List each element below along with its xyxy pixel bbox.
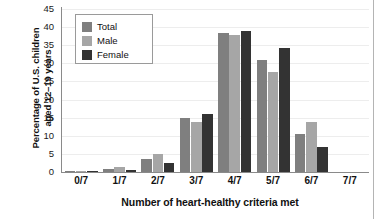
x-axis-tick-labels: 0/71/72/73/74/75/76/77/7 [62,175,369,189]
bar-group [257,9,290,172]
bar-total-3-of-7 [180,118,191,172]
bar-total-0-of-7 [65,171,76,172]
bar-male-5-of-7 [268,72,279,172]
y-axis-tick-label: 40 [24,22,54,32]
legend-swatch-female-icon [82,50,92,60]
legend-swatch-total-icon [82,22,92,32]
bar-female-5-of-7 [279,48,290,172]
x-axis-tick-label: 0/7 [61,175,101,187]
bar-female-3-of-7 [202,114,213,172]
legend-label-male: Male [97,36,118,46]
legend-label-female: Female [97,50,129,60]
bar-group [295,9,328,172]
bar-male-4-of-7 [229,35,240,172]
y-axis-line [61,7,62,172]
y-axis-tick-label: 5 [24,149,54,159]
bar-total-4-of-7 [218,33,229,172]
bar-male-2-of-7 [153,154,164,172]
bar-female-1-of-7 [126,170,137,172]
bar-total-1-of-7 [103,169,114,172]
legend-label-total: Total [97,22,117,32]
legend-swatch-male-icon [82,36,92,46]
bar-female-6-of-7 [317,147,328,172]
x-axis-tick-label: 5/7 [253,175,293,187]
bar-female-4-of-7 [241,31,252,172]
legend-item-total: Total [82,20,117,34]
bar-group [333,9,366,172]
bar-male-0-of-7 [76,171,87,172]
y-axis-tick-label: 45 [24,4,54,14]
y-axis-tick-label: 25 [24,76,54,86]
x-axis-line [61,172,369,173]
y-axis-tick-labels: 051015202530354045 [26,9,58,172]
x-axis-title: Number of heart-healthy criteria met [45,196,375,208]
y-axis-tick-label: 30 [24,58,54,68]
bar-male-6-of-7 [306,122,317,172]
y-axis-tick-label: 20 [24,95,54,105]
bar-total-6-of-7 [295,134,306,172]
bar-chart-figure: Percentage of U.S. children aged 12–19 y… [0,0,386,219]
x-axis-tick-label: 6/7 [291,175,331,187]
x-axis-tick-label: 3/7 [176,175,216,187]
y-axis-tick-label: 0 [24,167,54,177]
bar-group [180,9,213,172]
x-axis-tick-label: 4/7 [215,175,255,187]
bar-total-5-of-7 [257,60,268,172]
chart-legend: Total Male Female [75,14,153,64]
x-axis-tick-label: 2/7 [138,175,178,187]
page-edge-rule [373,0,374,219]
bar-group [218,9,251,172]
legend-item-male: Male [82,34,118,48]
x-axis-tick-label: 1/7 [100,175,140,187]
x-axis-tick-label: 7/7 [330,175,370,187]
bar-female-0-of-7 [87,171,98,172]
bar-total-2-of-7 [141,159,152,172]
bar-male-1-of-7 [114,167,125,172]
y-axis-tick-label: 10 [24,131,54,141]
bar-male-3-of-7 [191,122,202,172]
legend-item-female: Female [82,48,129,62]
bar-female-2-of-7 [164,163,175,172]
y-axis-tick-label: 35 [24,40,54,50]
y-axis-tick-label: 15 [24,113,54,123]
